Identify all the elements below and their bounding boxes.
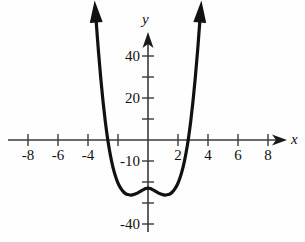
x-tick-label-neg8: -8 — [22, 148, 35, 163]
x-tick-label-6: 6 — [234, 148, 242, 163]
y-tick-label-20: 20 — [100, 91, 140, 106]
x-tick-label-neg6: -6 — [52, 148, 65, 163]
y-axis-label: y — [142, 12, 149, 27]
x-tick-label-8: 8 — [264, 148, 272, 163]
y-tick-label-neg40: -40 — [95, 217, 140, 232]
x-tick-label-2: 2 — [174, 148, 182, 163]
curve-left-arrowhead — [90, 1, 103, 23]
x-tick-label-neg4: -4 — [82, 148, 95, 163]
coordinate-plane — [0, 0, 305, 242]
graph-figure: x y -8 -6 -4 2 4 6 8 40 20 -10 -40 — [0, 0, 305, 242]
y-tick-label-40: 40 — [100, 49, 140, 64]
x-axis-label: x — [291, 132, 298, 147]
y-tick-label-neg10: -10 — [100, 154, 140, 169]
curve-right-arrowhead — [193, 1, 206, 23]
x-tick-label-4: 4 — [204, 148, 212, 163]
